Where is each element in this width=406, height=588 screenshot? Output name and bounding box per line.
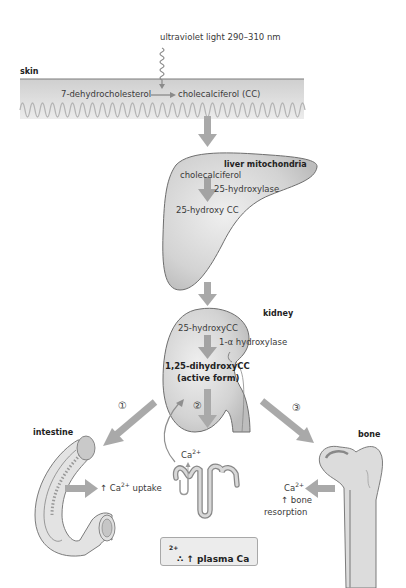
kidney-product-note: (active form) (177, 373, 239, 383)
intestine-effect: ↑ Ca2+ uptake (100, 483, 162, 493)
bone-effect-line2: resorption (264, 507, 307, 517)
pathway-2-marker: ② (193, 400, 202, 411)
liver-enzyme: 25-hydroxylase (214, 184, 279, 194)
kidney-enzyme: 1-α hydroxylase (219, 337, 287, 347)
kidney-substrate: 25-hydroxyCC (178, 323, 238, 333)
skin-substrate: 7-dehydrocholesterol (61, 89, 151, 99)
liver-substrate: cholecalciferol (180, 170, 241, 180)
bone-effect-line1: ↑ bone (281, 495, 312, 505)
tubule-calcium-label: Ca2+ (181, 450, 201, 460)
pathway-1-marker: ① (118, 400, 127, 411)
renal-tubule-icon (176, 462, 237, 516)
bone-calcium-label: Ca2+ (284, 483, 304, 493)
arrow-pathway-1-icon (103, 402, 155, 446)
bone-label: bone (358, 430, 380, 439)
intestine-icon (35, 436, 115, 556)
kidney-label: kidney (263, 309, 293, 318)
plasma-calcium-result-box: ∴ ↑ plasma Ca2+ (160, 537, 258, 566)
pathway-3-marker: ③ (292, 402, 301, 413)
skin-product: cholecalciferol (CC) (178, 89, 260, 99)
liver-label: liver mitochondria (224, 160, 307, 169)
intestine-label: intestine (33, 428, 73, 437)
plasma-calcium-result: ∴ ↑ plasma Ca2+ (169, 546, 178, 556)
uv-label: ultraviolet light 290–310 nm (160, 32, 281, 42)
liver-product: 25-hydroxy CC (176, 205, 239, 215)
arrow-skin-to-liver-icon (198, 116, 217, 147)
skin-label: skin (20, 67, 39, 76)
arrow-liver-to-kidney-icon (198, 282, 217, 306)
kidney-product-name: 1,25-dihydroxyCC (165, 361, 250, 371)
arrow-pathway-3-icon (262, 401, 314, 443)
bone-icon (319, 446, 382, 588)
